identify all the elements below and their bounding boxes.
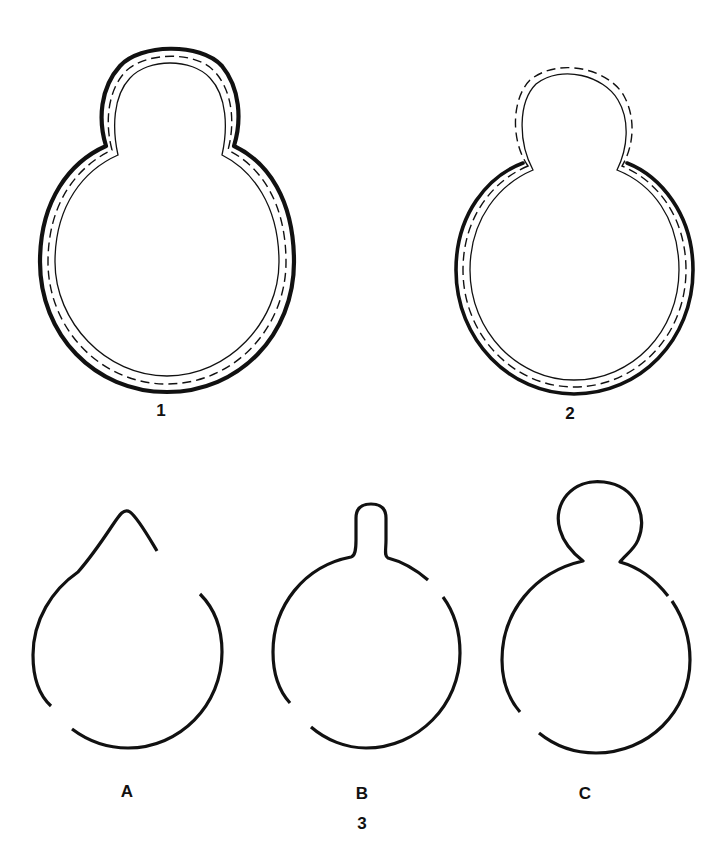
panel-1-inner-membrane xyxy=(55,63,279,376)
stage-b-cell xyxy=(273,504,460,748)
stage-c-cell xyxy=(502,482,690,753)
stage-a-label: A xyxy=(121,782,133,801)
stage-c-membrane-lower xyxy=(539,601,690,753)
stage-a-membrane-lower xyxy=(72,594,222,748)
stage-a-membrane-upper xyxy=(33,511,157,706)
panel-2-cell xyxy=(456,68,693,394)
group-3-label: 3 xyxy=(357,814,366,833)
stage-c-membrane-upper xyxy=(502,482,668,712)
panel-1-cell xyxy=(40,49,294,392)
stage-c-label: C xyxy=(579,784,591,803)
panel-2-outer-wall xyxy=(456,163,693,394)
stage-a-cell xyxy=(33,511,222,748)
panel-2-middle-layer xyxy=(463,68,686,387)
stage-b-label: B xyxy=(356,784,368,803)
budding-cells-diagram: 1 2 A B 3 C xyxy=(0,0,728,864)
panel-1-label: 1 xyxy=(156,401,165,420)
panel-1-middle-layer xyxy=(48,56,286,384)
panel-1-outer-wall xyxy=(40,49,294,392)
stage-b-membrane-upper xyxy=(273,504,428,703)
panel-2-label: 2 xyxy=(565,404,574,423)
stage-b-membrane-lower xyxy=(311,597,460,748)
panel-2-inner-membrane xyxy=(470,74,679,380)
